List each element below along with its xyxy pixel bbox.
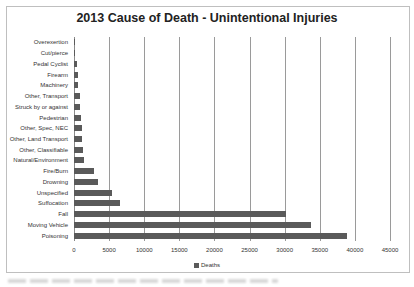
- bar-overexertion: [74, 39, 75, 45]
- gridline: [320, 37, 321, 241]
- bar-moving-vehicle: [74, 222, 311, 228]
- x-tick-label: 25000: [241, 247, 258, 253]
- x-tick-label: 10000: [136, 247, 153, 253]
- bar-other-land-transport: [74, 136, 82, 142]
- x-tick-label: 45000: [382, 247, 399, 253]
- bar-fall: [74, 211, 286, 217]
- category-label: Firearm: [47, 71, 68, 79]
- legend: Deaths: [0, 262, 414, 268]
- gridline: [390, 37, 391, 241]
- x-tick-label: 30000: [276, 247, 293, 253]
- bar-firearm: [74, 72, 78, 78]
- category-label: Struck by or against: [15, 103, 68, 111]
- category-label: Other, Classifiable: [19, 146, 68, 154]
- bar-natural-environment: [74, 157, 84, 163]
- source-caption-blurred: [8, 279, 278, 283]
- bar-fire-burn: [74, 168, 94, 174]
- x-tick-label: 35000: [311, 247, 328, 253]
- category-label: Other, Spec, NEC: [20, 124, 68, 132]
- bar-machinery: [74, 82, 78, 88]
- category-label: Natural/Environment: [13, 156, 68, 164]
- bar-other-transport: [74, 93, 80, 99]
- category-label: Moving Vehicle: [28, 221, 68, 229]
- bar-other-spec-nec: [74, 125, 82, 131]
- chart-title: 2013 Cause of Death - Unintentional Inju…: [0, 11, 414, 25]
- category-label: Suffocation: [38, 199, 68, 207]
- x-tick-label: 5000: [102, 247, 115, 253]
- bar-cut-pierce: [74, 50, 75, 56]
- bar-other-classifiable: [74, 147, 83, 153]
- x-tick-label: 0: [72, 247, 75, 253]
- x-tick-label: 40000: [347, 247, 364, 253]
- category-label: Other, Land Transport: [10, 135, 68, 143]
- legend-swatch: [194, 263, 199, 268]
- category-label: Overexertion: [34, 38, 68, 46]
- bar-pedal-cyclist: [74, 61, 77, 67]
- category-label: Other, Transport: [25, 92, 68, 100]
- bar-struck-by-or-against: [74, 104, 80, 110]
- category-label: Pedal Cyclist: [33, 60, 68, 68]
- plot-area: [74, 37, 390, 241]
- bar-unspecified: [74, 190, 112, 196]
- x-tick-label: 20000: [206, 247, 223, 253]
- category-label: Poisoning: [42, 232, 68, 240]
- category-label: Fire/Burn: [43, 167, 68, 175]
- gridline: [355, 37, 356, 241]
- category-label: Fall: [58, 210, 68, 218]
- category-label: Cut/pierce: [41, 49, 68, 57]
- category-label: Machinery: [40, 81, 68, 89]
- bar-suffocation: [74, 200, 120, 206]
- category-label: Unspecified: [37, 189, 68, 197]
- category-label: Drowning: [43, 178, 68, 186]
- bar-pedestrian: [74, 115, 81, 121]
- category-label: Pedestrian: [39, 114, 68, 122]
- bar-poisoning: [74, 233, 347, 239]
- legend-label: Deaths: [201, 262, 220, 268]
- x-tick-label: 15000: [171, 247, 188, 253]
- bar-drowning: [74, 179, 98, 185]
